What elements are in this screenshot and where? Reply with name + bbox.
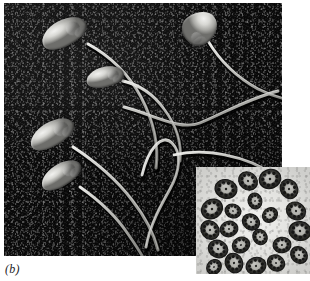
axoneme-cross-section xyxy=(197,217,223,243)
axoneme-cross-section xyxy=(204,256,225,274)
figure-panel: (b) xyxy=(0,0,310,281)
head-ridge xyxy=(60,161,78,178)
head-ridge xyxy=(63,18,83,38)
axoneme-cross-section xyxy=(198,195,227,223)
axoneme-cross-section xyxy=(246,191,263,210)
head-ridge xyxy=(52,119,71,138)
axoneme-cross-section xyxy=(259,205,280,226)
sperm-tail-upper-left xyxy=(88,44,157,168)
axoneme-cross-section xyxy=(272,236,292,254)
axoneme-cross-sections-layer xyxy=(196,167,310,274)
axoneme-cross-section xyxy=(256,167,283,192)
axoneme-cross-section xyxy=(244,255,268,274)
axoneme-cross-section xyxy=(235,168,261,194)
axoneme-cross-section xyxy=(288,220,310,242)
head-ridge xyxy=(189,30,204,45)
head-ridge xyxy=(107,69,120,82)
axoneme-cross-section xyxy=(213,177,238,200)
axoneme-cross-section xyxy=(218,219,239,238)
axoneme-cross-section xyxy=(283,199,309,224)
axoneme-cross-section xyxy=(264,252,287,274)
tem-inset xyxy=(196,167,310,274)
figure-caption-label: (b) xyxy=(5,262,20,276)
axoneme-cross-section xyxy=(223,202,242,220)
